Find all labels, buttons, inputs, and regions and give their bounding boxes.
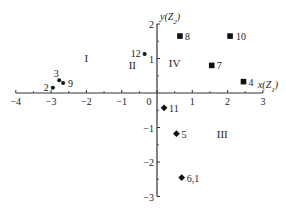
data-point: 11 xyxy=(161,103,179,114)
region-label: III xyxy=(217,128,228,140)
x-tick-label: 3 xyxy=(260,96,265,107)
square-marker-icon xyxy=(241,79,247,85)
y-axis-title: y(Z2) xyxy=(159,11,181,26)
y-tick-label: −2 xyxy=(143,157,154,168)
x-tick-label: −3 xyxy=(46,96,57,107)
y-tick-label: 2 xyxy=(149,19,154,30)
y-tick-label: −1 xyxy=(143,123,154,134)
data-point: 3 xyxy=(54,68,62,82)
y-tick-label: −3 xyxy=(143,192,154,203)
point-label: 10 xyxy=(236,31,246,42)
region-labels: IIIIIIIV xyxy=(85,52,229,140)
point-label: 4 xyxy=(248,77,253,88)
point-label: 12 xyxy=(131,48,141,59)
square-marker-icon xyxy=(209,63,215,69)
point-label: 7 xyxy=(217,60,222,71)
x-tick-label: 2 xyxy=(225,96,230,107)
point-label: 2 xyxy=(44,82,49,93)
data-point: 2 xyxy=(44,82,55,93)
x-axis-title: x(Z1) xyxy=(257,79,279,94)
point-label: 5 xyxy=(181,129,186,140)
diamond-marker-icon xyxy=(173,130,180,137)
data-point: 5 xyxy=(173,129,186,140)
scatter-chart: −4−3−2−10123−3−2−112x(Z1)y(Z2) IIIIIIIV … xyxy=(0,0,286,211)
circle-marker-icon xyxy=(51,86,55,90)
x-tick-label: 1 xyxy=(190,96,195,107)
point-label: 3 xyxy=(54,68,59,79)
point-label: 11 xyxy=(169,103,179,114)
circle-marker-icon xyxy=(143,52,147,56)
circle-marker-icon xyxy=(61,81,65,85)
x-tick-label: −2 xyxy=(81,96,92,107)
point-label: 9 xyxy=(68,78,73,89)
data-point: 6,1 xyxy=(178,173,199,184)
data-point: 4 xyxy=(241,77,254,88)
x-tick-label: −1 xyxy=(116,96,127,107)
region-label: IV xyxy=(169,57,181,69)
diamond-marker-icon xyxy=(161,104,168,111)
data-point: 8 xyxy=(177,31,190,42)
x-tick-label: 0 xyxy=(147,96,152,107)
point-label: 6,1 xyxy=(187,173,200,184)
diamond-marker-icon xyxy=(178,174,185,181)
square-marker-icon xyxy=(177,33,183,39)
y-tick-label: 1 xyxy=(149,54,154,65)
region-label: I xyxy=(85,52,89,64)
data-point: 7 xyxy=(209,60,222,71)
data-point: 10 xyxy=(227,31,246,42)
data-point: 9 xyxy=(61,78,73,89)
data-point: 12 xyxy=(131,48,147,59)
region-label: II xyxy=(129,59,137,71)
x-tick-label: −4 xyxy=(10,96,21,107)
square-marker-icon xyxy=(227,33,233,39)
point-label: 8 xyxy=(185,31,190,42)
